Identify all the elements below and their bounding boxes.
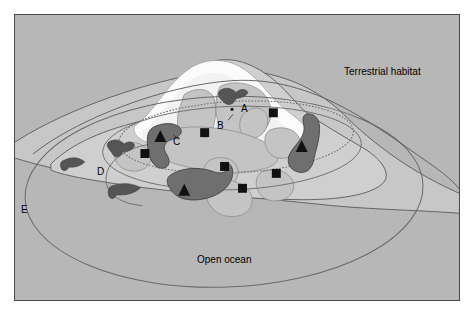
point-label-a: A bbox=[241, 104, 248, 114]
point-label-b: B bbox=[217, 121, 224, 131]
point-label-c: C bbox=[173, 137, 180, 147]
point-marker-a bbox=[230, 108, 233, 111]
figure-frame: Terrestrial habitat Open ocean A B C D E bbox=[14, 14, 460, 301]
figure-page: Terrestrial habitat Open ocean A B C D E bbox=[0, 0, 475, 316]
point-label-e: E bbox=[21, 205, 28, 215]
point-label-d: D bbox=[97, 167, 104, 177]
bird-shape-left-lower bbox=[108, 184, 140, 199]
open-ocean-label: Open ocean bbox=[197, 255, 252, 265]
terrestrial-habitat-label: Terrestrial habitat bbox=[344, 67, 421, 77]
